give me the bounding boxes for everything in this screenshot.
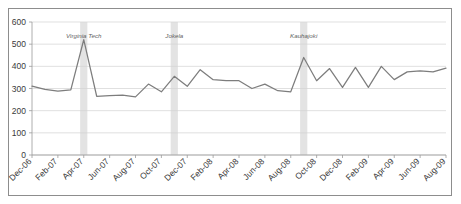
x-axis-tick-label: Apr-09 [371, 156, 396, 181]
x-axis-tick-label: Dec-06 [7, 156, 34, 183]
x-axis-tick-label: Dec-08 [317, 156, 344, 183]
y-axis-tick-label: 300 [12, 84, 26, 94]
gridlines [32, 22, 446, 155]
x-axis-tick-label: Oct-08 [293, 156, 318, 181]
line-chart: 0100200300400500600 Dec-06Feb-07Apr-07Ju… [0, 0, 461, 204]
x-axis-tick-label: Feb-08 [188, 156, 214, 182]
x-axis-tick-label: Jun-07 [86, 156, 112, 182]
x-axis-tick-label: Jun-08 [241, 156, 267, 182]
figure-container: 0100200300400500600 Dec-06Feb-07Apr-07Ju… [0, 0, 461, 204]
event-labels: Virginia TechJokelaKauhajoki [66, 32, 318, 39]
x-axis-tick-label: Aug-07 [110, 156, 137, 183]
y-axis-tick-label: 100 [12, 128, 26, 138]
event-annotation-label: Kauhajoki [290, 32, 318, 39]
x-axis-tick-label: Feb-09 [344, 156, 370, 182]
x-axis-tick-label: Aug-09 [421, 156, 448, 183]
x-axis-tick-label: Aug-08 [266, 156, 293, 183]
x-axis-tick-label: Oct-07 [138, 156, 163, 181]
y-axis-tick-label: 400 [12, 61, 26, 71]
x-axis: Dec-06Feb-07Apr-07Jun-07Aug-07Oct-07Dec-… [7, 155, 448, 183]
y-axis: 0100200300400500600 [12, 17, 32, 160]
y-axis-tick-label: 200 [12, 106, 26, 116]
y-axis-tick-label: 600 [12, 17, 26, 27]
x-axis-tick-label: Feb-07 [33, 156, 59, 182]
event-annotation-label: Jokela [164, 32, 183, 39]
x-axis-tick-label: Apr-07 [60, 156, 85, 181]
x-axis-tick-label: Dec-07 [162, 156, 189, 183]
y-axis-tick-label: 500 [12, 39, 26, 49]
x-axis-tick-label: Jun-09 [396, 156, 422, 182]
event-annotation-label: Virginia Tech [66, 32, 102, 39]
x-axis-tick-label: Apr-08 [215, 156, 240, 181]
